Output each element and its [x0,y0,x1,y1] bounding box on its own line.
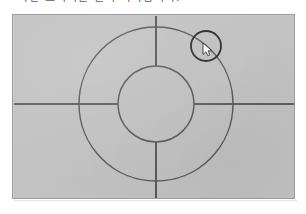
page-caption-text: 가면 표시되는 원이 나타납니다. [18,0,181,4]
caption-clip-region: 가면 표시되는 원이 나타납니다. [0,0,306,8]
panel-drop-shadow [14,200,297,202]
figure-panel [12,14,295,199]
inner-circle[interactable] [118,66,194,142]
figure-canvas[interactable] [13,15,294,198]
mouse-cursor-icon [203,43,212,56]
